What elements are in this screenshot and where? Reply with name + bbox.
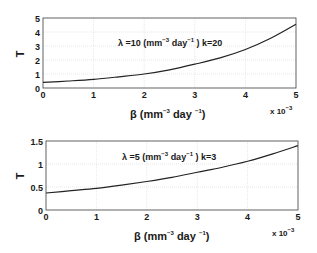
x-tick-label: 1 [94, 212, 99, 222]
y-tick-label: 2 [35, 56, 40, 66]
data-curve [43, 24, 296, 82]
y-tick-label: 5 [35, 14, 40, 24]
x-tick-label: 2 [142, 90, 147, 100]
x-multiplier: x 10−3 [270, 105, 293, 116]
y-axis-label: T [14, 172, 26, 179]
plot-frame [43, 18, 296, 88]
x-tick-label: 1 [91, 90, 96, 100]
y-tick-label: 4 [35, 28, 40, 38]
y-tick-label: 0 [35, 84, 40, 94]
y-tick-label: 0 [38, 206, 43, 216]
x-tick-labels: 012345 [40, 90, 298, 100]
x-tick-label: 3 [195, 212, 200, 222]
grid-lines [43, 18, 296, 88]
x-tick-label: 0 [40, 90, 45, 100]
annotation: λ =5 (mm−3 day−1 ) k=3 [122, 151, 216, 162]
x-axis-label: β (mm−3 day −1) [130, 108, 206, 120]
x-tick-label: 0 [43, 212, 48, 222]
figure: 012345 012345 λ =10 (mm−3 day−1 ) k=20 β… [0, 0, 317, 253]
y-axis-label: T [14, 50, 26, 57]
plot-bottom: 012345 00.511.5 λ =5 (mm−3 day−1 ) k=3 β… [14, 137, 301, 243]
y-tick-labels: 012345 [35, 14, 40, 94]
y-tick-label: 0.5 [30, 183, 43, 193]
x-tick-label: 2 [144, 212, 149, 222]
y-tick-label: 3 [35, 42, 40, 52]
annotation: λ =10 (mm−3 day−1 ) k=20 [118, 37, 222, 48]
x-multiplier: x 10−3 [272, 227, 295, 238]
x-tick-label: 5 [295, 212, 300, 222]
x-tick-label: 4 [245, 212, 250, 222]
y-tick-label: 1 [35, 70, 40, 80]
plot-top: 012345 012345 λ =10 (mm−3 day−1 ) k=20 β… [14, 14, 299, 121]
y-tick-labels: 00.511.5 [30, 137, 43, 216]
x-tick-labels: 012345 [43, 212, 300, 222]
x-tick-label: 3 [192, 90, 197, 100]
y-tick-label: 1 [38, 160, 43, 170]
x-axis-label: β (mm−3 day −1) [134, 230, 210, 242]
y-tick-label: 1.5 [30, 137, 43, 147]
x-tick-label: 5 [293, 90, 298, 100]
x-tick-label: 4 [243, 90, 248, 100]
